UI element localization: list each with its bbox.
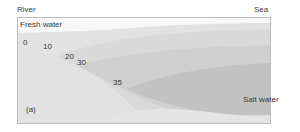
isohaline-label-20: 20 — [65, 53, 74, 61]
sea-label: Sea — [254, 6, 268, 14]
panel-label: (a) — [26, 106, 36, 114]
isohaline-label-10: 10 — [43, 43, 52, 51]
estuary-salinity-diagram — [17, 17, 270, 123]
fresh-water-label: Fresh water — [20, 21, 62, 29]
isohaline-label-30: 30 — [77, 59, 86, 67]
isohaline-label-35: 35 — [113, 79, 122, 87]
salt-water-label: Salt water — [243, 96, 279, 104]
isohaline-label-0: 0 — [23, 39, 27, 47]
river-label: River — [17, 6, 36, 14]
